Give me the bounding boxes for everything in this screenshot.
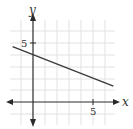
x-axis-right-arrow-icon — [113, 99, 120, 105]
y-axis-label: y — [28, 3, 36, 17]
y-axis-down-arrow-icon — [30, 119, 36, 127]
x-axis-label: x — [122, 95, 129, 109]
x-axis-left-arrow-icon — [6, 99, 13, 105]
y-tick-label-5: 5 — [21, 38, 27, 49]
coordinate-plane: y x 5 5 — [0, 0, 133, 129]
x-tick-label-5: 5 — [90, 106, 96, 117]
data-line — [13, 47, 114, 87]
grid — [10, 20, 115, 125]
